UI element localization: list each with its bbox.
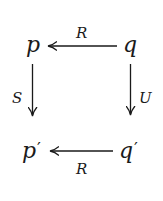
node-q-prime-symbol: q (119, 138, 133, 163)
node-p-prime-symbol: p (22, 138, 36, 163)
label-top-R: R (76, 26, 87, 41)
prime-mark: ′ (134, 138, 138, 158)
node-p-symbol: p (26, 32, 40, 57)
label-right-U: U (139, 91, 152, 106)
node-q: q (123, 34, 137, 56)
node-q-prime: q′ (119, 140, 138, 162)
node-p-prime: p′ (22, 140, 41, 162)
node-q-symbol: q (123, 32, 137, 57)
prime-mark: ′ (37, 138, 41, 158)
label-left-S: S (12, 91, 22, 106)
node-p: p (26, 34, 40, 56)
label-bottom-R: R (76, 162, 87, 177)
commutative-diagram: p q p′ q′ R S U R (0, 0, 163, 201)
